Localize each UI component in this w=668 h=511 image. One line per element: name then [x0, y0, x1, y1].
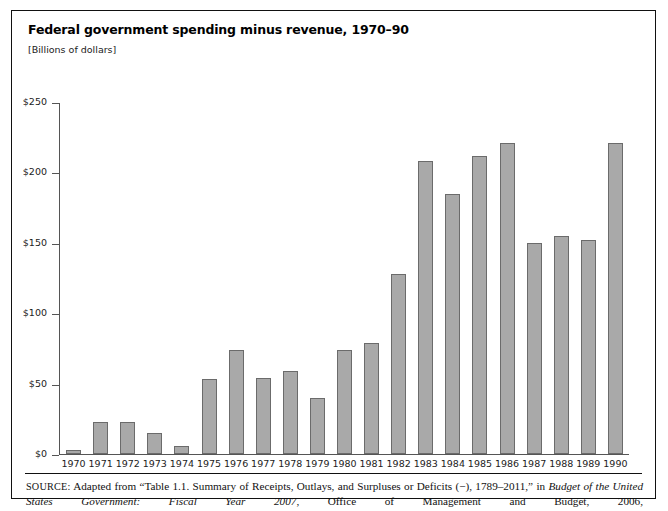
x-axis-label-1971: 1971	[87, 458, 114, 469]
x-axis-label-1987: 1987	[521, 458, 548, 469]
bar-1972[interactable]	[120, 422, 135, 454]
x-axis-label-1983: 1983	[412, 458, 439, 469]
y-axis-tick-label: $150	[23, 237, 47, 248]
y-axis-tick-label: $200	[23, 166, 47, 177]
bar-slot	[87, 103, 114, 454]
source-note: SOURCE: Adapted from “Table 1.1. Summary…	[26, 479, 643, 511]
bar-1990[interactable]	[608, 143, 623, 454]
x-axis-label-1975: 1975	[195, 458, 222, 469]
x-axis-label-1978: 1978	[277, 458, 304, 469]
bar-1986[interactable]	[500, 143, 515, 454]
y-axis-tick: $100	[12, 314, 59, 315]
bar-1983[interactable]	[418, 161, 433, 454]
chart-units-label: [Billions of dollars]	[28, 44, 655, 55]
bar-slot	[358, 103, 385, 454]
bar-1978[interactable]	[283, 371, 298, 454]
x-axis-label-1990: 1990	[602, 458, 629, 469]
bar-1985[interactable]	[472, 156, 487, 454]
bar-1970[interactable]	[66, 450, 81, 454]
y-axis-tick-label: $250	[23, 96, 47, 107]
bar-slot	[250, 103, 277, 454]
bar-1971[interactable]	[93, 422, 108, 454]
y-axis-tick: $0	[12, 455, 59, 456]
x-axis-label-1988: 1988	[548, 458, 575, 469]
bar-slot	[602, 103, 629, 454]
bar-1977[interactable]	[256, 378, 271, 454]
bar-slot	[304, 103, 331, 454]
y-axis-tick: $50	[12, 385, 59, 386]
bar-1973[interactable]	[147, 433, 162, 454]
bar-slot	[60, 103, 87, 454]
y-axis-tick-label: $0	[35, 448, 47, 459]
bar-1976[interactable]	[229, 350, 244, 454]
bar-slot	[494, 103, 521, 454]
bar-1974[interactable]	[174, 446, 189, 454]
bar-slot	[195, 103, 222, 454]
y-axis-tick: $150	[12, 244, 59, 245]
source-label: SOURCE:	[26, 481, 70, 492]
page-title: Federal government spending minus revenu…	[28, 22, 655, 37]
bar-1987[interactable]	[527, 243, 542, 454]
x-axis-label-1970: 1970	[60, 458, 87, 469]
y-axis-tick-label: $100	[23, 307, 47, 318]
x-axis-labels: 1970197119721973197419751976197719781979…	[60, 458, 629, 469]
x-axis-line	[59, 454, 629, 455]
y-axis-tick-mark	[52, 244, 59, 245]
x-axis-label-1980: 1980	[331, 458, 358, 469]
bar-1975[interactable]	[202, 379, 217, 454]
bar-1981[interactable]	[364, 343, 379, 454]
source-divider	[25, 473, 642, 474]
bar-1979[interactable]	[310, 398, 325, 454]
bar-slot	[277, 103, 304, 454]
x-axis-label-1972: 1972	[114, 458, 141, 469]
y-axis-tick-mark	[52, 103, 59, 104]
figure-header: Federal government spending minus revenu…	[12, 11, 655, 55]
plot-area: $0$50$100$150$200$250	[59, 103, 629, 455]
bar-slot	[466, 103, 493, 454]
x-axis-label-1979: 1979	[304, 458, 331, 469]
x-axis-label-1977: 1977	[250, 458, 277, 469]
y-axis-tick: $250	[12, 103, 59, 104]
x-axis-label-1973: 1973	[141, 458, 168, 469]
bar-1984[interactable]	[445, 194, 460, 454]
bar-slot	[412, 103, 439, 454]
y-axis-tick-mark	[52, 173, 59, 174]
bar-slot	[548, 103, 575, 454]
x-axis-label-1984: 1984	[439, 458, 466, 469]
x-axis-label-1986: 1986	[494, 458, 521, 469]
bar-1988[interactable]	[554, 236, 569, 454]
bar-slot	[168, 103, 195, 454]
bar-1980[interactable]	[337, 350, 352, 454]
x-axis-label-1989: 1989	[575, 458, 602, 469]
y-axis-tick-mark	[52, 314, 59, 315]
x-axis-label-1981: 1981	[358, 458, 385, 469]
y-axis-tick: $200	[12, 173, 59, 174]
bar-slot	[331, 103, 358, 454]
x-axis-label-1974: 1974	[168, 458, 195, 469]
bar-slot	[114, 103, 141, 454]
bar-slot	[141, 103, 168, 454]
bar-series	[60, 103, 629, 454]
y-axis-tick-mark	[52, 455, 59, 456]
y-axis-tick-label: $50	[29, 378, 47, 389]
bar-slot	[521, 103, 548, 454]
x-axis-label-1976: 1976	[223, 458, 250, 469]
y-axis-tick-mark	[52, 385, 59, 386]
x-axis-label-1985: 1985	[466, 458, 493, 469]
bar-slot	[439, 103, 466, 454]
bar-1989[interactable]	[581, 240, 596, 454]
figure-container: Federal government spending minus revenu…	[11, 10, 656, 499]
x-axis-label-1982: 1982	[385, 458, 412, 469]
bar-slot	[223, 103, 250, 454]
bar-1982[interactable]	[391, 274, 406, 454]
source-text-part-1: Adapted from “Table 1.1. Summary of Rece…	[70, 480, 548, 492]
bar-slot	[575, 103, 602, 454]
bar-slot	[385, 103, 412, 454]
